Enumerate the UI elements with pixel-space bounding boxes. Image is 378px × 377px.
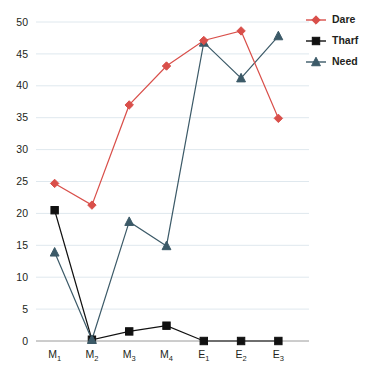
x-tick-label: M1 (48, 348, 61, 363)
data-point-triangle (274, 31, 283, 40)
legend-label-need: Need (332, 55, 358, 67)
data-point-square (51, 207, 58, 214)
series-lines (55, 31, 279, 341)
y-tick-label: 50 (16, 16, 28, 28)
y-tick-label: 45 (16, 48, 28, 60)
data-point-square (200, 337, 207, 344)
data-point-square (237, 337, 244, 344)
data-point-diamond (312, 16, 320, 24)
legend-label-dare: Dare (332, 13, 356, 25)
x-axis-tick-labels: M1M2M3M4E1E2E3 (48, 348, 284, 363)
series-line-tharf (55, 210, 279, 341)
data-point-square (312, 37, 319, 44)
legend-label-tharf: Tharf (332, 34, 359, 46)
x-tick-label: M4 (160, 348, 173, 363)
y-tick-label: 15 (16, 239, 28, 251)
y-tick-label: 20 (16, 207, 28, 219)
y-axis-tick-labels: 05101520253035404550 (16, 16, 28, 347)
data-point-square (275, 337, 282, 344)
x-tick-label: M3 (123, 348, 136, 363)
gridlines (36, 22, 309, 309)
y-tick-label: 40 (16, 79, 28, 91)
x-tick-label: M2 (85, 348, 98, 363)
data-point-diamond (88, 201, 96, 209)
data-point-triangle (50, 248, 59, 257)
y-tick-label: 10 (16, 271, 28, 283)
chart-legend: DareTharfNeed (306, 13, 359, 67)
y-tick-label: 25 (16, 175, 28, 187)
data-point-diamond (237, 27, 245, 35)
data-point-square (163, 322, 170, 329)
chart-canvas: 05101520253035404550 M1M2M3M4E1E2E3 Dare… (0, 0, 378, 377)
data-point-diamond (50, 179, 58, 187)
y-tick-label: 30 (16, 143, 28, 155)
x-tick-label: E1 (198, 348, 209, 363)
data-point-triangle (125, 217, 134, 226)
line-chart: 05101520253035404550 M1M2M3M4E1E2E3 Dare… (0, 0, 378, 377)
y-tick-label: 0 (22, 335, 28, 347)
data-point-diamond (274, 114, 282, 122)
y-tick-label: 35 (16, 111, 28, 123)
data-point-square (126, 328, 133, 335)
y-tick-label: 5 (22, 303, 28, 315)
series-markers (50, 27, 283, 345)
x-tick-label: E2 (235, 348, 246, 363)
x-tick-label: E3 (273, 348, 284, 363)
